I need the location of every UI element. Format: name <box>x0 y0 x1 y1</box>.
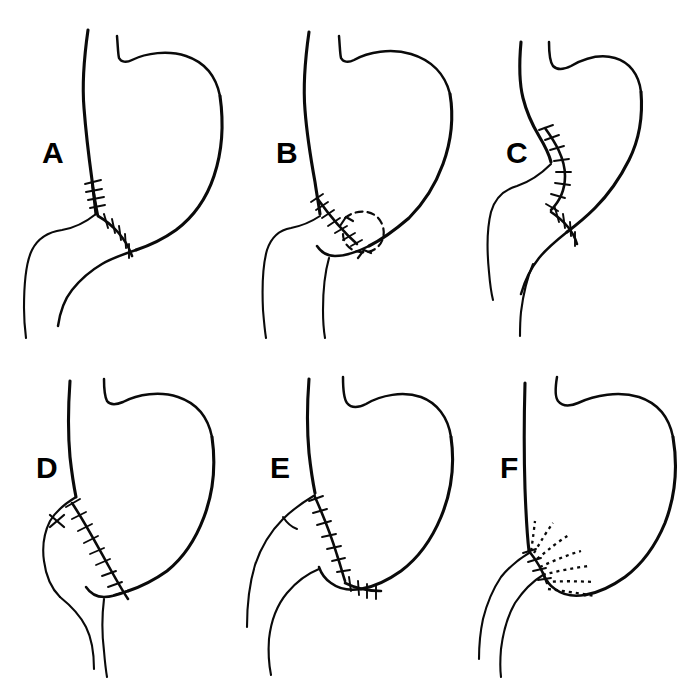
panel-e-suture-line <box>309 496 381 599</box>
panel-label-a: A <box>42 138 64 168</box>
panel-label-c: C <box>506 138 528 168</box>
panel-f-anatomy-outline <box>479 377 675 677</box>
panel-a-anatomy-outline <box>24 30 222 338</box>
panel-label-b: B <box>276 138 298 168</box>
figure-sheet: A B C D E F <box>0 0 692 678</box>
panel-b-anatomy-outline <box>263 32 452 338</box>
panel-d-anatomy-outline <box>43 379 213 677</box>
panel-b-suture-line <box>311 194 362 246</box>
panel-a <box>0 0 231 339</box>
panel-label-e: E <box>270 453 290 483</box>
panel-d-suture-line <box>66 499 128 599</box>
panel-e-anatomy-outline <box>247 377 453 675</box>
panel-label-d: D <box>36 453 58 483</box>
panel-d <box>0 339 231 678</box>
panel-b <box>231 0 462 339</box>
panel-c <box>461 0 692 339</box>
panel-d-knot <box>50 515 64 527</box>
panel-a-suture-line <box>85 180 132 258</box>
panel-f <box>461 339 692 678</box>
suture-ticks-lower <box>104 214 129 258</box>
panel-label-f: F <box>500 453 518 483</box>
panel-e <box>231 339 462 678</box>
